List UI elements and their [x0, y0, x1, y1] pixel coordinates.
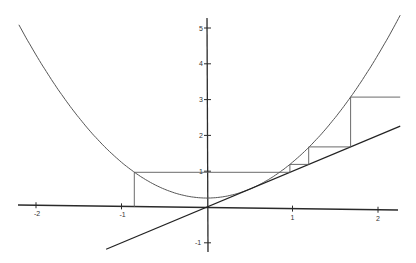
plot-area [19, 15, 400, 249]
x-tick-label: -2 [34, 210, 40, 217]
x-tick-label: 2 [376, 215, 380, 222]
cobweb-chart: -2-11254321-1 [0, 0, 416, 263]
x-tick-label: -1 [120, 211, 126, 218]
identity-line [106, 126, 400, 249]
y-tick-label: 5 [199, 25, 203, 32]
y-tick-label: 2 [199, 132, 203, 139]
y-tick-label: 3 [199, 96, 203, 103]
parabola-curve [19, 15, 400, 198]
y-tick-label: 4 [199, 60, 203, 67]
y-tick-label: -1 [195, 239, 201, 246]
y-tick-label: 1 [199, 168, 203, 175]
x-tick-label: 1 [291, 214, 295, 221]
cobweb-path [134, 97, 400, 207]
